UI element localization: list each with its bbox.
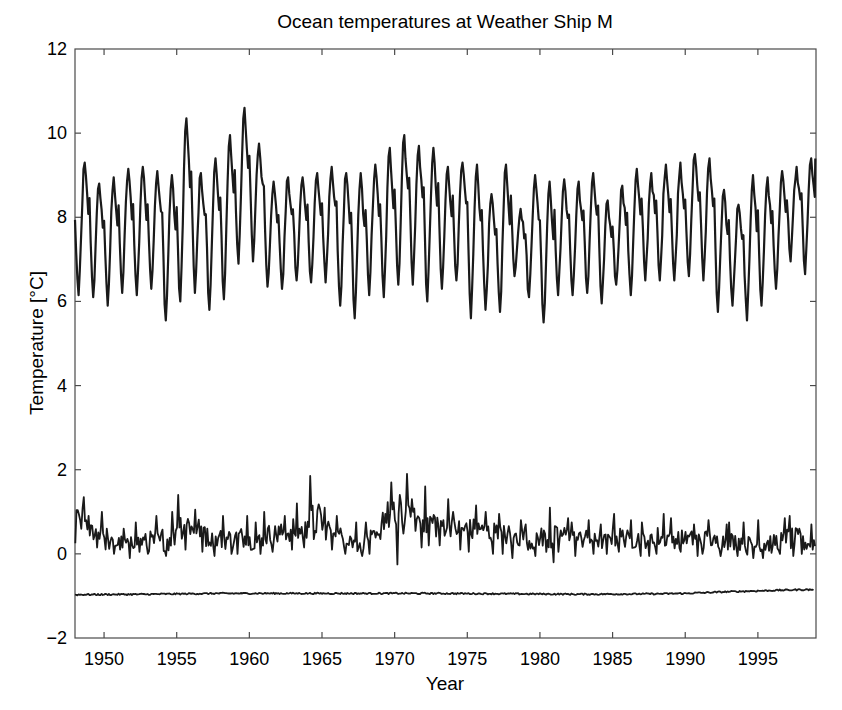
x-tick-label: 1990	[665, 649, 705, 669]
series-lines	[75, 108, 815, 595]
series-surface-line	[75, 108, 815, 323]
y-axis-ticks: −2024681012	[46, 39, 816, 648]
chart-title: Ocean temperatures at Weather Ship M	[277, 11, 612, 32]
series-intermediate-line	[75, 474, 815, 565]
chart: Ocean temperatures at Weather Ship M 195…	[0, 0, 842, 710]
y-tick-label: 12	[47, 39, 67, 59]
x-tick-label: 1985	[593, 649, 633, 669]
y-tick-label: 6	[57, 291, 67, 311]
x-tick-label: 1950	[84, 649, 124, 669]
x-axis-label: Year	[426, 673, 465, 694]
x-tick-label: 1995	[738, 649, 778, 669]
x-tick-label: 1970	[375, 649, 415, 669]
y-tick-label: 8	[57, 207, 67, 227]
x-tick-label: 1955	[157, 649, 197, 669]
x-tick-label: 1980	[520, 649, 560, 669]
x-tick-label: 1960	[229, 649, 269, 669]
series-deep-line	[75, 589, 814, 595]
y-axis-label: Temperature [°C]	[26, 271, 47, 415]
y-tick-label: −2	[46, 628, 67, 648]
y-tick-label: 0	[57, 544, 67, 564]
y-tick-label: 10	[47, 123, 67, 143]
y-tick-label: 2	[57, 460, 67, 480]
x-tick-label: 1975	[447, 649, 487, 669]
y-tick-label: 4	[57, 376, 67, 396]
x-tick-label: 1965	[302, 649, 342, 669]
plot-area: 1950195519601965197019751980198519901995…	[46, 39, 816, 669]
